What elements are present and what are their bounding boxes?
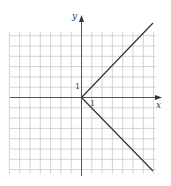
lower-branch bbox=[82, 98, 154, 172]
upper-branch bbox=[82, 23, 154, 98]
x-tick-label: 1 bbox=[90, 100, 95, 108]
y-axis-arrow-icon bbox=[79, 15, 84, 22]
x-axis-label: x bbox=[156, 101, 161, 110]
grid bbox=[9, 32, 156, 174]
y-tick-label: 1 bbox=[75, 83, 80, 91]
axes bbox=[10, 15, 162, 176]
coordinate-plane bbox=[0, 0, 171, 186]
y-axis-label: y bbox=[72, 12, 77, 21]
